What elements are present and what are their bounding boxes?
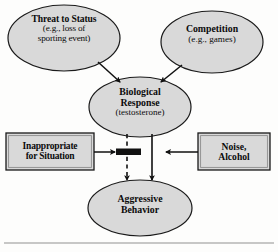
connector-threat-to-biological: [98, 62, 120, 82]
diagram-canvas: [0, 0, 278, 252]
node-aggressive-behavior: [88, 180, 192, 236]
connector-competition-to-biological: [161, 65, 182, 82]
node-threat-to-status: [8, 5, 120, 71]
node-inappropriate-for-situation: [6, 133, 94, 170]
node-biological-response: [89, 77, 191, 137]
node-noise-alcohol: [198, 133, 270, 170]
moderator-bar: [116, 149, 141, 156]
aggression-diagram: Threat to Status (e.g., loss of sporting…: [0, 0, 278, 252]
node-competition: [161, 11, 263, 73]
